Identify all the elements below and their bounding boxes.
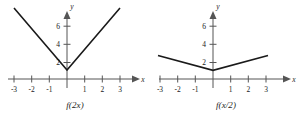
y-tick-label: 6 xyxy=(56,22,60,31)
y-axis-f-2x xyxy=(64,11,71,88)
y-tick-label: 4 xyxy=(56,40,60,49)
graph-panel-f-x-over-2: -3 -2 -1 1 2 3 2 4 6 x y f(x/2) xyxy=(151,0,301,123)
caption-f-x-over-2: f(x/2) xyxy=(151,100,301,110)
x-tick-label: -3 xyxy=(11,85,17,94)
x-axis-f-x-over-2 xyxy=(159,76,291,83)
x-tick-label: 2 xyxy=(100,85,104,94)
y-tick-label: 6 xyxy=(202,22,206,31)
x-tick-label: -1 xyxy=(192,85,198,94)
y-tick-label: 4 xyxy=(202,40,206,49)
x-axis-label: x xyxy=(291,75,296,84)
plot-f-x-over-2: -3 -2 -1 1 2 3 2 4 6 x y xyxy=(151,0,301,100)
x-tick-label: 2 xyxy=(246,85,250,94)
plot-f-2x: -3 -2 -1 1 2 3 2 4 6 x y xyxy=(0,0,150,100)
x-tick-label: 3 xyxy=(264,85,268,94)
x-tick-label: -2 xyxy=(29,85,35,94)
x-tick-label: -3 xyxy=(157,85,163,94)
x-tick-label: 1 xyxy=(229,85,233,94)
graph-panel-f-2x: -3 -2 -1 1 2 3 2 4 6 x y f(2x) xyxy=(0,0,150,123)
figure-container: -3 -2 -1 1 2 3 2 4 6 x y f(2x) xyxy=(0,0,301,123)
y-axis-label: y xyxy=(215,2,220,11)
y-axis-f-x-over-2 xyxy=(210,11,217,88)
x-tick-label: 1 xyxy=(83,85,87,94)
caption-f-2x: f(2x) xyxy=(0,100,150,110)
x-tick-label: -2 xyxy=(175,85,181,94)
y-axis-label: y xyxy=(69,2,74,11)
x-tick-label: 3 xyxy=(118,85,122,94)
x-tick-label: -1 xyxy=(46,85,52,94)
x-axis-label: x xyxy=(140,75,145,84)
y-tick-label: 2 xyxy=(202,58,206,67)
